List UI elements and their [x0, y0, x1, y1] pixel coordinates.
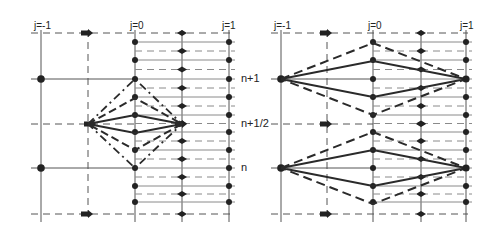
- flux-marker-bottom: [177, 211, 187, 217]
- fine-flux-marker: [416, 138, 426, 144]
- fine-node-j1: [463, 129, 469, 135]
- fine-flux-marker: [416, 48, 426, 54]
- arrow-bottom: [81, 210, 93, 218]
- label-right-j1: j=1: [460, 21, 474, 31]
- fine-flux-marker: [177, 156, 187, 162]
- label-row-n-plus-1: n+1: [240, 73, 261, 84]
- fine-node-j0: [132, 57, 138, 63]
- label-right-j0: j=0: [368, 21, 382, 31]
- fine-node-j1: [226, 147, 232, 153]
- fine-flux-marker: [177, 48, 187, 54]
- arrow-bottom: [320, 210, 332, 218]
- fine-node-j1: [226, 129, 232, 135]
- fine-node-j0: [132, 76, 138, 82]
- label-left-j0: j=0: [130, 21, 144, 31]
- flux-marker-top: [416, 30, 426, 36]
- fine-node-j1: [463, 147, 469, 153]
- fine-node-j1: [463, 183, 469, 189]
- fine-node-j1: [226, 165, 232, 171]
- flux-marker-bottom: [416, 211, 426, 217]
- flux-marker-top: [177, 30, 187, 36]
- fine-flux-marker: [177, 174, 187, 180]
- fine-flux-marker: [416, 103, 426, 109]
- fine-node-j1: [463, 199, 469, 205]
- fine-node-j0: [132, 39, 138, 45]
- fine-node-j0: [370, 165, 376, 171]
- fine-node-j1: [463, 57, 469, 63]
- stencil-diagram: j=-1 j=0 j=1 j=-1 j=0 j=1 n+1 n+1/2 n: [0, 0, 499, 233]
- fine-flux-marker: [177, 67, 187, 73]
- fine-node-j1: [226, 183, 232, 189]
- arrow-top: [81, 29, 93, 37]
- fine-node-j1: [463, 112, 469, 118]
- fine-node-j1: [226, 76, 232, 82]
- fine-node-j1: [226, 57, 232, 63]
- fine-node-j1: [463, 39, 469, 45]
- fine-flux-marker: [177, 103, 187, 109]
- fine-flux-marker: [416, 191, 426, 197]
- label-row-n: n: [240, 162, 248, 173]
- flux-marker-half: [416, 121, 426, 127]
- arrow-half: [320, 120, 332, 128]
- fine-node-j0: [132, 199, 138, 205]
- coarse-node-j1: [462, 164, 469, 171]
- fine-node-j0: [132, 183, 138, 189]
- coarse-node-n: [37, 164, 45, 172]
- fine-node-j1: [226, 199, 232, 205]
- fine-node-j0: [132, 165, 138, 171]
- fine-node-j1: [226, 94, 232, 100]
- label-left-j1: j=1: [222, 21, 236, 31]
- fine-node-j1: [226, 39, 232, 45]
- label-row-n-plus-half: n+1/2: [240, 118, 270, 129]
- arrow-top: [320, 29, 332, 37]
- fine-flux-marker: [177, 138, 187, 144]
- fine-node-j1: [463, 94, 469, 100]
- fine-flux-marker: [177, 191, 187, 197]
- label-right-j-minus-1: j=-1: [274, 21, 291, 31]
- fine-node-j0: [370, 76, 376, 82]
- fine-node-j1: [226, 112, 232, 118]
- coarse-node-n-plus-1: [37, 75, 45, 83]
- label-left-j-minus-1: j=-1: [34, 21, 51, 31]
- fine-flux-marker: [177, 85, 187, 91]
- coarse-node-j1: [462, 75, 469, 82]
